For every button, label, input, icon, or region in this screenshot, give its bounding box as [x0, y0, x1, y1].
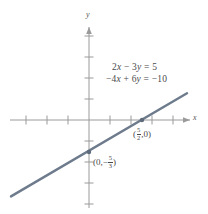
eq2-operator: + — [124, 74, 130, 84]
eq2-coef-x: −4 — [106, 74, 117, 84]
equation-line-2: −4x + 6y = −10 — [106, 74, 167, 86]
eq2-rhs: −10 — [152, 74, 167, 84]
plotted-line — [11, 93, 187, 196]
y-intercept-point — [87, 150, 91, 154]
graph-figure: y x 2x − 3y = 5 −4x + 6y = −10 (52,0) (0… — [0, 0, 208, 214]
eq2-var-y: y — [137, 74, 141, 84]
eq1-rhs: 5 — [152, 62, 157, 72]
yint-fraction: 53 — [108, 155, 112, 169]
x-axis-arrow-icon — [183, 117, 190, 123]
coordinate-plane-svg — [0, 0, 208, 214]
eq1-var-y: y — [137, 62, 141, 72]
y-intercept-label: (0,−53) — [93, 155, 116, 169]
eq1-operator: − — [124, 62, 130, 72]
x-intercept-label: (52,0) — [133, 127, 151, 141]
equation-annotation-block: 2x − 3y = 5 −4x + 6y = −10 — [112, 62, 167, 85]
eq2-equals: = — [144, 74, 150, 84]
eq1-equals: = — [144, 62, 150, 72]
equation-line-1: 2x − 3y = 5 — [112, 62, 167, 74]
eq2-var-x: x — [117, 74, 121, 84]
y-axis-arrow-icon — [86, 27, 92, 34]
xint-comma-zero: ,0) — [141, 129, 151, 139]
y-axis-label: y — [86, 10, 90, 19]
yint-close-paren: ) — [113, 157, 116, 167]
x-axis-label: x — [193, 113, 197, 122]
yint-open-paren: (0,− — [93, 157, 108, 167]
eq1-var-x: x — [117, 62, 121, 72]
x-intercept-point — [140, 118, 144, 122]
yint-denominator: 3 — [108, 163, 112, 170]
